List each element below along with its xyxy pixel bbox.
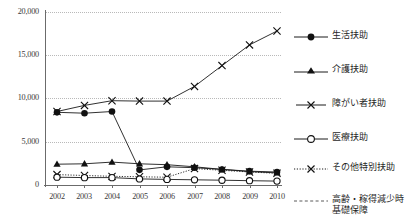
series-line-shougaisha-fujo xyxy=(53,27,280,115)
legend-label: 介護扶助 xyxy=(332,64,368,75)
legend-item-sonota-tokubetsu-fujo[interactable]: その他特別扶助 xyxy=(292,162,395,176)
data-point xyxy=(191,83,198,90)
legend-label: 生活扶助 xyxy=(332,30,368,41)
data-point xyxy=(108,158,115,164)
legend-label: 高齢・稼得減少時基礎保障 xyxy=(332,194,404,216)
data-point xyxy=(246,178,252,184)
dashed-line-icon xyxy=(292,194,330,208)
legend-label: その他特別扶助 xyxy=(332,162,395,173)
data-point xyxy=(54,174,60,180)
data-point xyxy=(246,41,253,48)
legend-label-line2: 基礎保障 xyxy=(332,205,368,215)
data-point xyxy=(109,175,115,181)
filled-circle-line-icon xyxy=(292,30,330,44)
data-point xyxy=(218,62,225,69)
data-point xyxy=(54,109,61,116)
legend-label-line1: 高齢・稼得減少時 xyxy=(332,194,404,204)
data-point xyxy=(81,175,87,181)
legend-item-iryo-fujo[interactable]: 医療扶助 xyxy=(292,132,368,146)
legend-label: 医療扶助 xyxy=(332,132,368,143)
data-point xyxy=(109,108,116,115)
data-point xyxy=(53,161,60,167)
data-point xyxy=(163,161,170,167)
legend-label: 障がい者扶助 xyxy=(332,98,386,109)
filled-triangle-line-icon xyxy=(292,64,330,78)
dotted-cross-x-line-icon xyxy=(292,162,330,176)
data-point xyxy=(274,178,280,184)
legend-item-seikatsu-fujo[interactable]: 生活扶助 xyxy=(292,30,368,44)
chart-figure: 20,000 15,000 10,000 5,000 0 2002 2003 2… xyxy=(0,0,419,217)
legend-item-shougaisha-fujo[interactable]: 障がい者扶助 xyxy=(292,98,386,112)
data-point xyxy=(164,176,170,182)
data-point xyxy=(136,176,142,182)
data-point xyxy=(81,110,88,117)
cross-x-line-icon xyxy=(292,98,330,112)
legend: 生活扶助 介護扶助 障がい者扶助 xyxy=(292,14,419,204)
data-point xyxy=(273,27,280,34)
data-point xyxy=(136,167,143,174)
legend-item-koureisha-kiso-hoshou[interactable]: 高齢・稼得減少時基礎保障 xyxy=(292,194,404,216)
data-point xyxy=(219,177,225,183)
open-circle-line-icon xyxy=(292,132,330,146)
legend-item-kaigo-fujo[interactable]: 介護扶助 xyxy=(292,64,368,78)
data-point xyxy=(191,177,197,183)
